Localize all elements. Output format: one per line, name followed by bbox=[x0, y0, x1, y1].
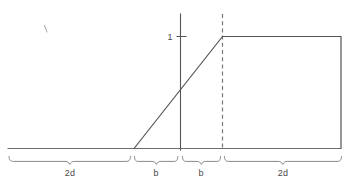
trapezoid-function-diagram: 1 2d b b 2d bbox=[0, 0, 353, 182]
brace-label-right-outer: 2d bbox=[278, 168, 288, 178]
figure-background bbox=[0, 0, 353, 182]
brace-label-right-inner: b bbox=[198, 168, 203, 178]
brace-label-left-inner: b bbox=[153, 168, 158, 178]
brace-label-left-outer: 2d bbox=[65, 168, 75, 178]
y-tick-label: 1 bbox=[167, 32, 172, 42]
figure-container: 1 2d b b 2d bbox=[0, 0, 353, 182]
